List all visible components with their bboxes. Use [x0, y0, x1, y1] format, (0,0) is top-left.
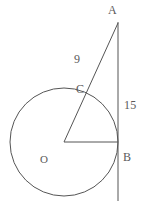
label-length-ca: 9: [74, 53, 80, 65]
label-point-c: C: [76, 83, 84, 95]
geometry-figure-canvas: A 9 C 15 O B: [0, 0, 150, 205]
label-point-b: B: [123, 151, 131, 163]
label-point-o: O: [40, 153, 48, 165]
label-length-ab: 15: [124, 99, 136, 111]
label-point-a: A: [108, 4, 117, 16]
segment-oa: [64, 23, 118, 142]
